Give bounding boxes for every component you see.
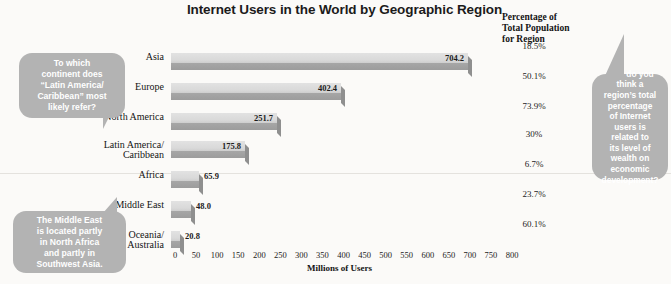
x-axis-tick-label: 800 [506, 250, 519, 260]
bar: 251.7 [171, 113, 277, 130]
bar: 48.0 [171, 201, 191, 218]
percentage-value: 6.7% [500, 159, 568, 169]
callout-middle-east-note: The Middle East is located partly in Nor… [13, 211, 126, 273]
callout-tail-icon [602, 34, 624, 78]
percentage-value: 50.1% [500, 71, 568, 81]
bar-value-label: 48.0 [196, 201, 211, 212]
bar-fill [171, 83, 341, 100]
bar-value-label: 20.8 [185, 231, 200, 242]
x-axis-tick-label: 250 [274, 250, 287, 260]
callout-wealth-text: How do you think a region’s total percen… [602, 69, 659, 186]
bar: 65.9 [171, 171, 199, 188]
x-axis-tick-label: 200 [253, 250, 266, 260]
x-axis-tick-label: 750 [485, 250, 498, 260]
bar-fill [171, 201, 191, 218]
callout-latin-america-question: To which continent does “Latin America/ … [19, 53, 125, 118]
percentage-value: 30% [500, 129, 568, 139]
bar: 402.4 [171, 83, 341, 100]
bar-fill [171, 53, 468, 70]
x-axis-tick-label: 650 [442, 250, 455, 260]
bar-value-label: 175.8 [222, 141, 241, 152]
percentage-value: 60.1% [500, 219, 568, 229]
callout-tail-icon [103, 113, 115, 129]
percentage-column: Percentage of Total Population for Regio… [500, 12, 592, 45]
bar-value-label: 704.2 [445, 53, 464, 64]
bar-chart-plot-area: Asia704.2Europe402.4North America251.7La… [171, 45, 508, 245]
x-axis-tick-label: 50 [192, 250, 201, 260]
percentage-value: 73.9% [500, 101, 568, 111]
x-axis-tick-label: 0 [173, 250, 177, 260]
callout-middle-east-text: The Middle East is located partly in Nor… [36, 215, 102, 270]
x-axis-tick-label: 450 [358, 250, 371, 260]
bar-category-label: Africa [4, 170, 164, 180]
x-axis-tick-label: 550 [400, 250, 413, 260]
x-axis-tick-label: 100 [211, 250, 224, 260]
bar: 20.8 [171, 231, 180, 248]
x-axis-tick-label: 700 [464, 250, 477, 260]
x-axis-tick-label: 150 [232, 250, 245, 260]
percentage-value: 23.7% [500, 189, 568, 199]
chart-page: Internet Users in the World by Geographi… [0, 0, 671, 284]
x-axis-ticks: 0501001502002503003504004505005506006507… [171, 250, 508, 262]
bar-category-label: Latin America/ Caribbean [4, 140, 164, 159]
bar-category-label: Middle East [4, 200, 164, 210]
bar: 175.8 [171, 141, 245, 158]
x-axis-tick-label: 500 [379, 250, 392, 260]
callout-latin-america-text: To which continent does “Latin America/ … [37, 58, 106, 113]
bar-fill [171, 231, 180, 248]
x-axis-title: Millions of Users [171, 263, 508, 273]
x-axis-tick-label: 600 [421, 250, 434, 260]
bar: 704.2 [171, 53, 468, 70]
percentage-value: 18.5% [500, 41, 568, 51]
bar-value-label: 402.4 [318, 83, 337, 94]
bar-fill [171, 171, 199, 188]
x-axis-tick-label: 400 [337, 250, 350, 260]
x-axis-tick-label: 350 [316, 250, 329, 260]
bar-value-label: 251.7 [254, 113, 273, 124]
x-axis-tick-label: 300 [295, 250, 308, 260]
callout-tail-icon [100, 197, 117, 213]
callout-wealth-question: How do you think a region’s total percen… [592, 74, 668, 180]
bar-value-label: 65.9 [204, 171, 219, 182]
